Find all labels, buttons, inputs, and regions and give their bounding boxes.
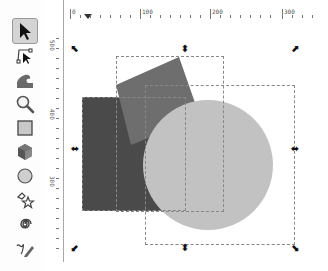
hruler-label: 300	[284, 8, 295, 15]
tool-tweak[interactable]	[13, 68, 37, 92]
vruler-label: 400	[49, 109, 56, 120]
star-icon	[15, 190, 35, 210]
scale-handle-w[interactable]: ⬌	[70, 144, 80, 154]
tool-node-editor[interactable]	[13, 44, 37, 68]
scale-handle-se[interactable]: ⬊	[290, 243, 300, 253]
spiral-icon	[15, 214, 35, 234]
scale-handle-nw[interactable]: ⬉	[70, 44, 80, 54]
node-edit-icon	[15, 46, 35, 66]
scale-handle-e[interactable]: ⬌	[290, 144, 300, 154]
vruler-label: 300	[49, 176, 56, 187]
bbox-circle	[145, 85, 295, 245]
vertical-ruler[interactable]: 500 400 300	[44, 0, 64, 271]
hruler-label: 200	[212, 8, 223, 15]
scale-handle-sw[interactable]: ⬋	[70, 243, 80, 253]
hruler-label: 100	[142, 8, 153, 15]
magnifier-icon	[15, 94, 35, 114]
rectangle-icon	[15, 118, 35, 138]
tool-zoom[interactable]	[13, 92, 37, 116]
drawing-canvas[interactable]: ⬉ ⬍ ⬈ ⬌ ⬌ ⬋ ⬍ ⬊	[64, 22, 328, 271]
tool-rectangle[interactable]	[13, 116, 37, 140]
tool-ellipse[interactable]	[13, 164, 37, 188]
scale-handle-n[interactable]: ⬍	[180, 44, 190, 54]
circle-icon	[15, 166, 35, 186]
arrow-select-icon	[15, 21, 35, 41]
hruler-label: 0	[72, 8, 76, 15]
vruler-label: 500	[49, 40, 56, 51]
tool-selector[interactable]	[12, 18, 38, 44]
3d-box-icon	[15, 142, 35, 162]
tool-pencil[interactable]	[13, 236, 37, 260]
scale-handle-s[interactable]: ⬍	[180, 243, 190, 253]
tool-spiral[interactable]	[13, 212, 37, 236]
toolbox	[0, 0, 44, 271]
horizontal-ruler[interactable]: 0 100 200 300	[64, 0, 328, 22]
pencil-icon	[15, 238, 35, 258]
tool-3d-box[interactable]	[13, 140, 37, 164]
tweak-wave-icon	[15, 70, 35, 90]
scale-handle-ne[interactable]: ⬈	[290, 44, 300, 54]
tool-star[interactable]	[13, 188, 37, 212]
